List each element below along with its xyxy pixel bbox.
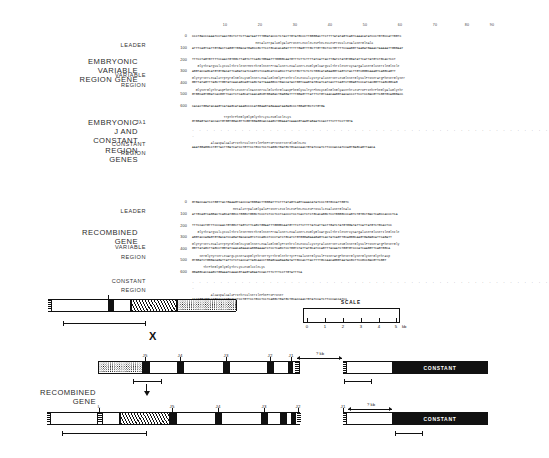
- sublabel-leader: LEADER: [98, 41, 146, 49]
- ruler-tick: 60: [398, 23, 402, 27]
- map-embryonic-j-constant: CONSTANT: [98, 361, 488, 377]
- scale-title: SCALE: [341, 300, 361, 305]
- spacer-j2-j1: [273, 362, 289, 373]
- sublabel-constant: CONSTANT: [98, 140, 146, 148]
- ruler-tick: 30: [293, 23, 297, 27]
- sublabel-variable: VARIABLE: [98, 71, 146, 79]
- dna-line: GGTTATAGTTTAGCTTGGTATCAACAGCAGTCAGCTATTA…: [192, 80, 398, 84]
- constant-label-box-2: CONSTANT: [393, 413, 487, 424]
- protein-line: GlySerGlyThrAspPheThrLeuSerIleAsnSerValG…: [192, 88, 403, 92]
- protein-line: GlyThrArgValLysValThrIleSerMetThrGlnSerP…: [192, 230, 399, 234]
- sequence-row: 200 TTTCCTAGTGTTTTCCAACTGTGGCTTAGTCTTCAG…: [170, 53, 492, 65]
- scale-number: 4: [378, 324, 380, 329]
- spacer-j4-j3: [183, 362, 224, 373]
- map-title-line: RECOMBINED: [0, 388, 96, 397]
- bar-variable-region-2: [120, 413, 170, 424]
- gap-measure-arrow: [297, 358, 342, 359]
- row-number: 0: [170, 34, 187, 38]
- bar-constant-flank-2: [346, 413, 393, 424]
- tick-j5: [145, 357, 146, 361]
- map2-measure-bar: [133, 381, 162, 382]
- sublabel-region-3: REGION: [98, 253, 146, 261]
- map3-constant-measure-bar: [395, 433, 423, 434]
- ruler-tick: 10: [223, 23, 227, 27]
- gene-bar: [48, 299, 236, 312]
- scale-unit: kb: [402, 324, 406, 329]
- protein-line: GlyThrArgValLysValThrIleSerMetThrGlnSerP…: [192, 64, 399, 68]
- tick-j4: [180, 357, 181, 361]
- scale-tick: [307, 318, 308, 323]
- ruler-tick: 50: [363, 23, 367, 27]
- spacer-j5-j4-2: [176, 413, 216, 424]
- dna-line: CCCTGACCCAAATCCTAACTGCTCTTCTTAATAATTTTGG…: [192, 34, 401, 38]
- bar-variable-region: [131, 300, 177, 311]
- dna-line: GGAGGCACCAAGCTGGAAATCAAACGTAAGTAGAATCCAC…: [192, 270, 302, 274]
- tick-j2: [270, 357, 271, 361]
- protein-line: GlyTyrSerLeuAlaTrpTyrGlnGlnLysGlnSerLeuA…: [192, 242, 399, 246]
- sublabel-leader-2: LEADER: [98, 207, 146, 215]
- sequence-block-recombined: 0 GTGACCAATCCTGGTTACTGAAAGTCACCCATGGGACT…: [170, 196, 492, 305]
- sequence-row: 500 GlySerGlyThrAspPheThrLeuSerIleAsnSer…: [170, 88, 492, 100]
- dna-line: TTTCCACTGTTTCCCAACTGTGGCTTAGTCTTCAGCTGGA…: [192, 223, 392, 227]
- row-number: 200: [170, 224, 187, 228]
- spacer-j3-j2-2: [267, 413, 281, 424]
- dotted-continuation: ·: [192, 135, 196, 139]
- tick-j5-2: [172, 408, 173, 412]
- row-number: 600: [170, 104, 187, 108]
- map3-c-measure-end-left: [395, 431, 396, 436]
- scale-number: 1: [324, 324, 326, 329]
- row-number: 500: [170, 258, 187, 262]
- bar-ragged-end-right: [295, 362, 299, 373]
- map2-constant-measure-bar: [344, 381, 372, 382]
- map2-measure-end-right: [161, 379, 162, 384]
- scale-number: 0: [306, 324, 308, 329]
- scale-tick: [396, 318, 397, 323]
- recombined-vj-bar: [47, 412, 300, 425]
- protein-line: MetAlaTrpAlaGlyAlaProSerLeuIleLeuPheLeuL…: [192, 207, 351, 211]
- tick-j2-2: [298, 408, 299, 412]
- bar-upstream-stipple: [98, 362, 143, 373]
- tick-j3-2: [264, 408, 265, 412]
- map-recombined-gene: CONSTANT: [47, 412, 488, 428]
- gap-label: ? kb: [316, 351, 324, 356]
- sequence-row: 100 MetAlaTrpAlaGlyAlaProSerLeuIleLeuPhe…: [170, 208, 492, 220]
- protein-line: AlaAspAlaAlaProThrValSerIlePheProProSerS…: [192, 141, 306, 145]
- constant-label-box: CONSTANT: [393, 362, 487, 373]
- sequence-block-embryonic-j-constant: TrpThrPheGlyGlyGlyThrLysLeuGluIleLys GTG…: [170, 115, 492, 153]
- sequence-row: 400 GlyTyrSerLeuAlaTrpTyrGlnGlnLysGlnSer…: [170, 76, 492, 88]
- ruler-tick: 80: [465, 23, 469, 27]
- segment-j1-2: [292, 413, 296, 424]
- protein-line: TrpThrPheGlyGlyGlyThrLysLeuGluIleLys: [192, 115, 291, 119]
- row-number: 300: [170, 69, 187, 73]
- dotted-continuation: · · · · · · · · · · · · · · · · · · · · …: [192, 129, 549, 133]
- protein-line: ThrPheGlyGlyGlyThrLysLeuGluIleLys: [192, 265, 265, 269]
- scale-tick: [325, 318, 326, 323]
- protein-line: SerGlyTyrSerLeuArgLysSerAspGlyThrSerTyrT…: [192, 254, 390, 258]
- dna-line: TTTCCTAGTGTTTTCCAACTGTGGCTTAGTCTTCAGCTGG…: [192, 57, 396, 61]
- gap-measure-arrow-2: [348, 409, 392, 410]
- row-number: 400: [170, 247, 187, 251]
- ruler-tick: 90: [490, 23, 494, 27]
- sequence-row: 300 GlyThrArgValLysValThrIleSerMetThrGln…: [170, 65, 492, 77]
- dna-line: GTGGAGTACTACCACTGTGGTGGACGTTCGGTGGAGGCAC…: [192, 119, 353, 123]
- row-number: 100: [170, 46, 187, 50]
- sublabel-constant-2: CONSTANT: [98, 277, 146, 285]
- dna-line: AAATGGAGGCCTGTTACTTGATCATCCTGTTCCTGCCTCC…: [192, 145, 375, 149]
- sequence-row: 200 TTTCCACTGTTTCCCAACTGTGGCTTAGTCTTCAGC…: [170, 219, 492, 231]
- group-title-line: J AND: [14, 127, 138, 136]
- sequence-row: 400 GlyTyrSerLeuAlaTrpTyrGlnGlnLysGlnSer…: [170, 242, 492, 254]
- tick-j1-2: [343, 408, 344, 412]
- spacer-j5-j4: [149, 362, 178, 373]
- sequence-row: 500 SerGlyTyrSerLeuArgLysSerAspGlyThrSer…: [170, 254, 492, 266]
- group-title-line: RECOMBINED: [14, 228, 138, 237]
- map2-c-measure-end-left: [344, 379, 345, 384]
- map2-c-measure-end-right: [371, 379, 372, 384]
- tick-j4-2: [218, 408, 219, 412]
- scale-number: 3: [360, 324, 362, 329]
- sequence-row-dotted: · · · · · · · · · · · · · · · · · · · · …: [170, 127, 492, 141]
- bar-flank-left: [51, 300, 109, 311]
- protein-line: AlaAspAlaAlaProThrValSerIlePheProProSer: [192, 293, 284, 297]
- scale-tick: [379, 318, 380, 323]
- protein-line: GlyTyrSerLeuAlaTrpTyrGlnGlnLysGlnSerLeuA…: [192, 76, 405, 80]
